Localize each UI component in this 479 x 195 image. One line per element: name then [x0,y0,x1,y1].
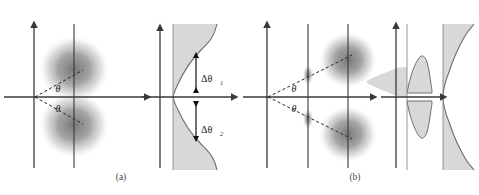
spread-label-upper-a: Δθ 1 [201,73,223,86]
spread-label-lower-a: Δθ 2 [201,124,224,137]
spread-label-lower-a-sub: 2 [220,130,224,137]
spread-label-lower-a-text: Δθ [201,124,212,135]
panel-a-distribution: Δθ 1 Δθ 2 [142,24,232,170]
panel-b-distribution [366,24,474,170]
angle-label-lower-a: θ [56,103,61,114]
narrow-peak-upper-b [407,56,432,93]
spread-label-upper-a-text: Δθ [201,73,212,84]
broad-peak-lower-b [443,97,474,170]
panel-b-geometry: θ θ [243,24,378,168]
figure-root: θ θ Δθ 1 [0,0,479,195]
figure-canvas: θ θ Δθ 1 [0,0,479,195]
caption-panel-b: (b) [349,172,360,183]
angle-label-upper-b: θ [292,83,297,94]
spread-label-upper-a-sub: 1 [220,79,223,86]
broad-peak-upper-b [443,24,474,97]
caption-panel-a: (a) [116,172,127,183]
curve-upper-a [173,24,217,97]
panel-a-geometry: θ θ [4,24,145,168]
angle-label-upper-a: θ [56,83,61,94]
narrow-peak-lower-b [407,101,432,138]
angle-label-lower-b: θ [292,103,297,114]
panel-a: θ θ Δθ 1 [4,24,232,183]
panel-b: θ θ [243,24,474,183]
